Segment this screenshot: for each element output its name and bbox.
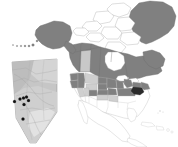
inset-terrain	[12, 59, 57, 143]
state-washington	[70, 73, 78, 81]
state-kansas	[97, 95, 108, 100]
state-north-dakota	[98, 77, 107, 84]
sampling-point	[27, 99, 30, 102]
region-alberta	[80, 50, 91, 72]
sampling-point	[19, 98, 22, 101]
state-utah	[84, 88, 89, 96]
region-alaska-panhandle	[64, 41, 76, 54]
map-figure	[0, 0, 178, 147]
state-idaho	[78, 73, 85, 88]
region-caribbean-islands	[141, 122, 173, 133]
sampling-point	[25, 96, 28, 99]
state-south-dakota	[98, 84, 107, 90]
map-canvas	[0, 0, 178, 147]
sampling-point	[13, 100, 16, 103]
region-central-america	[127, 138, 147, 147]
sampling-point	[22, 97, 25, 100]
feature-atlantic-marks	[158, 110, 164, 113]
state-oregon	[70, 80, 78, 88]
sampling-point	[22, 118, 25, 121]
state-nebraska	[97, 90, 108, 95]
state-colorado	[88, 90, 97, 96]
state-iowa	[108, 88, 117, 95]
sampling-point	[23, 103, 26, 106]
alberta-inset-map	[12, 59, 57, 143]
region-aleutian-islands	[12, 40, 38, 47]
